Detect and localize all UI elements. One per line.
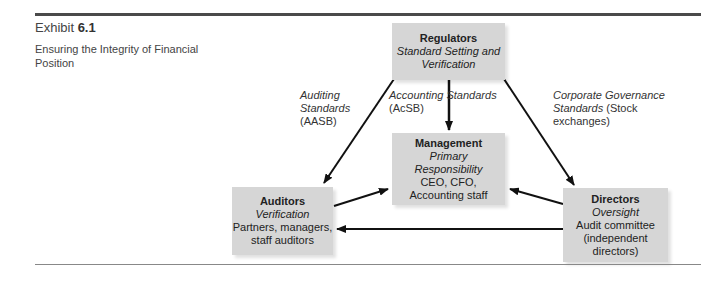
edge-label-accounting-standards: Accounting Standards (AcSB): [389, 89, 529, 115]
node-title: Management: [392, 137, 505, 150]
edge-label-governance-standards: Corporate Governance Standards (Stock ex…: [553, 89, 678, 128]
node-auditors: Auditors Verification Partners, managers…: [232, 187, 333, 255]
node-management: Management Primary Responsibility CEO, C…: [392, 133, 505, 205]
node-detail: CEO, CFO, Accounting staff: [392, 176, 505, 202]
node-title: Auditors: [232, 195, 333, 208]
edge-label-plain: (AcSB): [389, 102, 424, 114]
bottom-rule: [35, 264, 701, 265]
arrow-auditors-to-management: [334, 189, 388, 206]
node-role: Primary Responsibility: [392, 150, 505, 176]
node-directors: Directors Oversight Audit committee (ind…: [563, 188, 668, 262]
node-role: Oversight: [563, 206, 668, 219]
edge-label-auditing-standards: Auditing Standards (AASB): [300, 89, 370, 128]
arrow-directors-to-management: [510, 189, 563, 204]
node-title: Regulators: [392, 32, 505, 45]
node-regulators: Regulators Standard Setting and Verifica…: [392, 23, 505, 80]
edge-label-italic: Auditing Standards: [300, 89, 350, 114]
edge-label-plain: (AASB): [300, 115, 337, 127]
node-detail: Audit committee (independent directors): [563, 219, 668, 258]
node-role: Verification: [232, 208, 333, 221]
node-detail: Partners, managers, staff auditors: [232, 221, 333, 247]
edge-label-italic: Accounting Standards: [389, 89, 497, 101]
node-role: Standard Setting and Verification: [392, 45, 505, 71]
node-title: Directors: [563, 193, 668, 206]
